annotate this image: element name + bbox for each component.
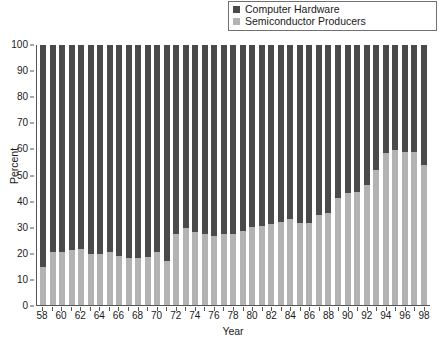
x-axis-tick-mark	[319, 307, 320, 311]
bar-78	[230, 45, 236, 305]
y-axis-tick-mark	[30, 279, 34, 280]
legend-item-semiconductor-producers: Semiconductor Producers	[233, 16, 432, 27]
bar-segment-computer-hardware	[40, 45, 46, 267]
x-axis-tick-label: 84	[285, 311, 296, 321]
bar-75	[202, 45, 208, 305]
bar-segment-semiconductor-producers	[297, 223, 303, 305]
bar-segment-semiconductor-producers	[335, 198, 341, 305]
x-axis-tick-mark	[281, 307, 282, 311]
bar-92	[364, 45, 370, 305]
bar-67	[126, 45, 132, 305]
legend-label-semiconductor-producers: Semiconductor Producers	[245, 16, 366, 27]
bar-72	[173, 45, 179, 305]
bar-segment-computer-hardware	[421, 45, 427, 165]
bar-segment-computer-hardware	[202, 45, 208, 234]
bar-76	[211, 45, 217, 305]
bar-98	[421, 45, 427, 305]
x-axis-tick-label: 80	[247, 311, 258, 321]
y-axis-tick-mark	[30, 71, 34, 72]
x-axis-tick-label: 82	[266, 311, 277, 321]
y-axis-tick-mark	[30, 149, 34, 150]
x-axis-tick-label: 70	[151, 311, 162, 321]
x-axis-labels: 5860626466687072747678808284868890929496…	[36, 307, 430, 323]
bar-segment-computer-hardware	[278, 45, 284, 222]
bar-segment-computer-hardware	[325, 45, 331, 213]
x-axis-tick-mark	[376, 307, 377, 311]
bar-segment-semiconductor-producers	[69, 250, 75, 305]
bar-segment-semiconductor-producers	[192, 232, 198, 305]
bar-segment-computer-hardware	[59, 45, 65, 252]
legend-label-computer-hardware: Computer Hardware	[245, 4, 340, 15]
bar-segment-semiconductor-producers	[421, 165, 427, 305]
bar-segment-computer-hardware	[240, 45, 246, 231]
bar-59	[50, 45, 56, 305]
x-axis-tick-mark	[243, 307, 244, 311]
x-axis-tick-label: 86	[304, 311, 315, 321]
x-axis-tick-label: 64	[94, 311, 105, 321]
y-axis-tick-mark	[30, 45, 34, 46]
bar-segment-computer-hardware	[335, 45, 341, 198]
bar-65	[107, 45, 113, 305]
bar-60	[59, 45, 65, 305]
bar-86	[306, 45, 312, 305]
y-axis-title: Percent	[8, 131, 20, 201]
bar-segment-computer-hardware	[230, 45, 236, 234]
bar-segment-semiconductor-producers	[240, 231, 246, 305]
bar-73	[183, 45, 189, 305]
bar-84	[287, 45, 293, 305]
y-axis-tick-mark	[30, 175, 34, 176]
y-axis-tick-label: 10	[17, 275, 28, 285]
x-axis-tick-mark	[128, 307, 129, 311]
bar-segment-semiconductor-producers	[325, 213, 331, 305]
bar-segment-semiconductor-producers	[145, 257, 151, 305]
bar-segment-computer-hardware	[183, 45, 189, 228]
bar-91	[354, 45, 360, 305]
x-axis-tick-mark	[300, 307, 301, 311]
bar-segment-semiconductor-producers	[116, 256, 122, 305]
bar-93	[373, 45, 379, 305]
bar-segment-semiconductor-producers	[221, 234, 227, 306]
x-axis-title: Year	[36, 325, 430, 337]
bar-63	[88, 45, 94, 305]
bar-79	[240, 45, 246, 305]
y-axis-tick-mark	[30, 201, 34, 202]
bar-77	[221, 45, 227, 305]
bar-segment-computer-hardware	[345, 45, 351, 193]
bar-segment-semiconductor-producers	[287, 219, 293, 305]
bar-segment-semiconductor-producers	[354, 192, 360, 305]
bar-segment-computer-hardware	[249, 45, 255, 227]
y-axis-tick-label: 100	[11, 40, 28, 50]
bar-segment-semiconductor-producers	[50, 252, 56, 305]
bar-96	[402, 45, 408, 305]
x-axis-tick-mark	[204, 307, 205, 311]
bar-segment-computer-hardware	[154, 45, 160, 252]
y-axis-tick-mark	[30, 97, 34, 98]
bar-85	[297, 45, 303, 305]
bar-segment-computer-hardware	[126, 45, 132, 258]
bar-segment-computer-hardware	[78, 45, 84, 249]
x-axis-tick-label: 74	[189, 311, 200, 321]
x-axis-tick-label: 94	[380, 311, 391, 321]
bar-segment-semiconductor-producers	[306, 223, 312, 305]
bar-segment-computer-hardware	[107, 45, 113, 252]
bar-segment-computer-hardware	[383, 45, 389, 153]
bar-segment-computer-hardware	[306, 45, 312, 223]
bar-segment-computer-hardware	[364, 45, 370, 185]
bar-segment-semiconductor-producers	[211, 236, 217, 305]
x-axis-tick-label: 58	[36, 311, 47, 321]
x-axis-tick-label: 90	[342, 311, 353, 321]
bar-segment-semiconductor-producers	[392, 150, 398, 305]
bar-segment-semiconductor-producers	[88, 254, 94, 305]
bar-segment-computer-hardware	[268, 45, 274, 224]
legend-swatch-computer-hardware	[233, 6, 240, 13]
bar-group	[37, 45, 430, 305]
bar-segment-semiconductor-producers	[107, 252, 113, 305]
bar-segment-computer-hardware	[69, 45, 75, 250]
bar-segment-computer-hardware	[354, 45, 360, 192]
bar-88	[325, 45, 331, 305]
bar-89	[335, 45, 341, 305]
bar-segment-semiconductor-producers	[268, 224, 274, 305]
x-axis-tick-mark	[52, 307, 53, 311]
x-axis-tick-label: 96	[399, 311, 410, 321]
bar-66	[116, 45, 122, 305]
